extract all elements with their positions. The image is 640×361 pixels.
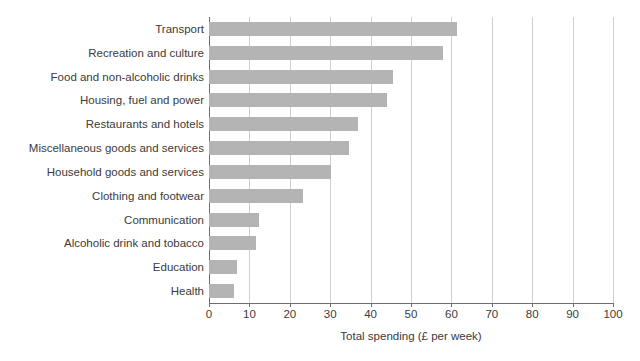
bar-row[interactable] [209, 236, 613, 250]
category-label: Alcoholic drink and tobacco [4, 236, 204, 250]
bar[interactable] [209, 117, 358, 131]
x-tick-label: 80 [526, 308, 539, 320]
bar[interactable] [209, 141, 349, 155]
bar-row[interactable] [209, 284, 613, 298]
x-tick-mark [411, 303, 412, 307]
x-tick-label: 60 [445, 308, 458, 320]
x-tick-mark [492, 303, 493, 307]
bar[interactable] [209, 189, 303, 203]
category-label: Transport [4, 22, 204, 36]
bar[interactable] [209, 284, 234, 298]
bar[interactable] [209, 46, 443, 60]
gridline [613, 17, 614, 303]
x-tick-label: 40 [364, 308, 377, 320]
bar-row[interactable] [209, 213, 613, 227]
plot-area [209, 17, 613, 303]
x-tick-mark [573, 303, 574, 307]
category-label: Food and non-alcoholic drinks [4, 70, 204, 84]
x-tick-label: 90 [566, 308, 579, 320]
bar[interactable] [209, 70, 393, 84]
bar[interactable] [209, 22, 457, 36]
bar-row[interactable] [209, 70, 613, 84]
bar[interactable] [209, 93, 387, 107]
bar-row[interactable] [209, 117, 613, 131]
x-tick-mark [451, 303, 452, 307]
x-tick-label: 70 [485, 308, 498, 320]
x-tick-label: 100 [603, 308, 622, 320]
bar-row[interactable] [209, 46, 613, 60]
bar-row[interactable] [209, 260, 613, 274]
category-label: Household goods and services [4, 165, 204, 179]
x-tick-mark [249, 303, 250, 307]
x-tick-mark [290, 303, 291, 307]
category-label: Miscellaneous goods and services [4, 141, 204, 155]
bar-row[interactable] [209, 165, 613, 179]
x-tick-label: 50 [405, 308, 418, 320]
category-label: Clothing and footwear [4, 189, 204, 203]
x-tick-mark [613, 303, 614, 307]
category-label: Education [4, 260, 204, 274]
bar-row[interactable] [209, 22, 613, 36]
bar[interactable] [209, 260, 237, 274]
category-label: Recreation and culture [4, 46, 204, 60]
category-axis-labels: TransportRecreation and cultureFood and … [0, 17, 204, 303]
x-axis-title: Total spending (£ per week) [209, 330, 613, 342]
bar-row[interactable] [209, 141, 613, 155]
bar-row[interactable] [209, 93, 613, 107]
x-tick-label: 20 [283, 308, 296, 320]
x-tick-label: 30 [324, 308, 337, 320]
x-tick-label: 0 [206, 308, 212, 320]
x-tick-mark [330, 303, 331, 307]
x-tick-mark [371, 303, 372, 307]
x-tick-label: 10 [243, 308, 256, 320]
category-label: Health [4, 284, 204, 298]
bar[interactable] [209, 213, 259, 227]
category-label: Housing, fuel and power [4, 93, 204, 107]
bar[interactable] [209, 165, 331, 179]
category-label: Communication [4, 213, 204, 227]
bar-row[interactable] [209, 189, 613, 203]
bar-chart: TransportRecreation and cultureFood and … [0, 0, 640, 361]
x-tick-mark [209, 303, 210, 307]
category-label: Restaurants and hotels [4, 117, 204, 131]
bar[interactable] [209, 236, 256, 250]
x-tick-mark [532, 303, 533, 307]
